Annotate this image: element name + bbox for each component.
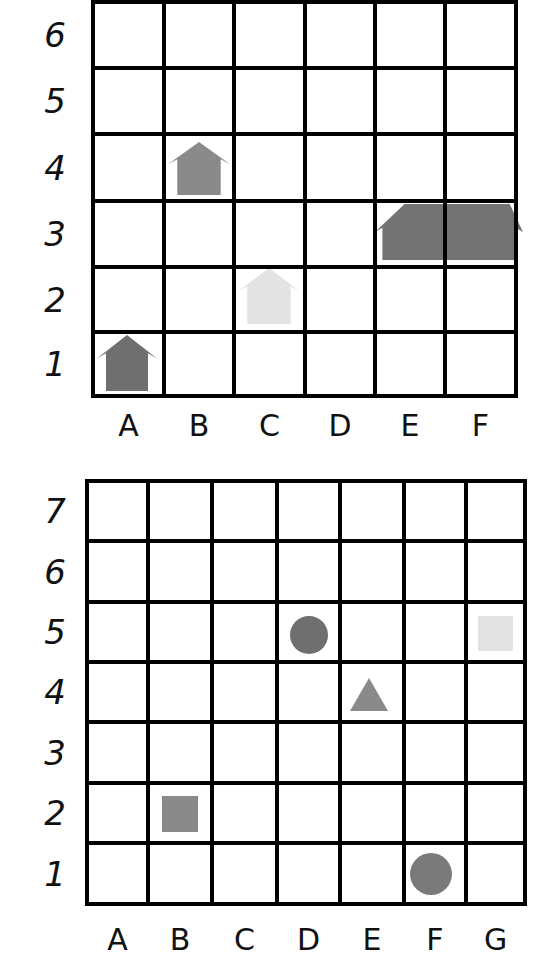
row-label: 4 [44,151,66,185]
row-label: 5 [44,84,66,118]
row-label: 6 [44,18,66,52]
column-label: E [363,925,382,955]
column-label: B [189,411,210,441]
column-label: A [118,411,139,441]
row-label: 1 [44,857,66,891]
column-label: F [472,411,489,441]
row-label: 2 [44,283,66,317]
column-label: F [426,925,443,955]
triangle-icon [350,678,388,711]
row-label: 5 [44,615,66,649]
house-icon [168,142,230,195]
row-label: 6 [44,555,66,589]
coordinate-grids-canvas: ABCDEF654321ABCDEFG7654321 [0,0,556,958]
wide-house-icon [375,204,523,260]
top-grid [91,2,523,396]
column-label: C [234,925,255,955]
bottom-grid [85,481,527,904]
row-label: 7 [44,494,66,528]
column-label: E [401,411,420,441]
column-label: D [328,411,351,441]
row-label: 4 [44,675,66,709]
column-label: G [484,925,507,955]
circle-icon [410,853,452,895]
square-icon [162,796,198,832]
row-label: 2 [44,796,66,830]
grids-drawing [0,0,556,958]
row-label: 1 [44,347,66,381]
house-icon [238,268,300,324]
square-icon [478,616,513,651]
circle-icon [290,616,328,654]
column-label: B [170,925,191,955]
column-label: C [259,411,280,441]
row-label: 3 [44,736,66,770]
row-label: 3 [44,217,66,251]
column-label: D [297,925,320,955]
house-icon [97,335,157,391]
column-label: A [107,925,128,955]
